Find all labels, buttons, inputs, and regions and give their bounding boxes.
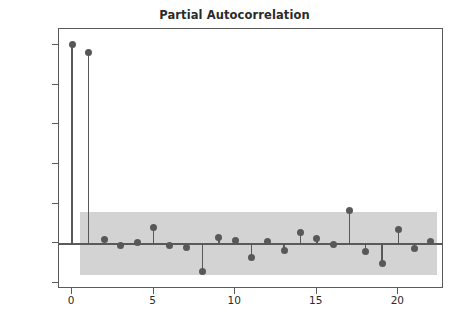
data-point-lag-7 xyxy=(183,244,190,251)
y-tick-mark xyxy=(52,123,58,124)
y-tick-mark xyxy=(52,203,58,204)
data-point-lag-2 xyxy=(101,236,108,243)
plot-area xyxy=(58,28,443,288)
stem-lag-17 xyxy=(349,210,351,243)
data-point-lag-14 xyxy=(297,229,304,236)
data-point-lag-1 xyxy=(85,49,92,56)
data-point-lag-5 xyxy=(150,224,157,231)
x-tick-mark xyxy=(316,288,317,294)
x-tick-label: 20 xyxy=(382,294,412,306)
data-point-lag-0 xyxy=(69,41,76,48)
x-tick-label: 10 xyxy=(219,294,249,306)
x-tick-label: 15 xyxy=(301,294,331,306)
stem-lag-0 xyxy=(71,45,73,243)
y-tick-mark xyxy=(52,44,58,45)
y-tick-mark xyxy=(52,242,58,243)
y-tick-mark xyxy=(52,163,58,164)
data-point-lag-8 xyxy=(199,268,206,275)
data-point-lag-4 xyxy=(134,239,141,246)
x-tick-mark xyxy=(71,288,72,294)
x-tick-mark xyxy=(397,288,398,294)
data-point-lag-19 xyxy=(379,260,386,267)
pacf-figure: Partial Autocorrelation −0.20.00.20.40.6… xyxy=(0,0,469,326)
data-point-lag-17 xyxy=(346,207,353,214)
page-title: Partial Autocorrelation xyxy=(0,8,469,22)
x-tick-mark xyxy=(153,288,154,294)
data-point-lag-12 xyxy=(264,238,271,245)
x-tick-label: 0 xyxy=(56,294,86,306)
y-tick-mark xyxy=(52,282,58,283)
data-point-lag-13 xyxy=(281,247,288,254)
x-tick-mark xyxy=(234,288,235,294)
x-tick-label: 5 xyxy=(138,294,168,306)
stem-lag-1 xyxy=(88,53,90,244)
y-tick-mark xyxy=(52,84,58,85)
